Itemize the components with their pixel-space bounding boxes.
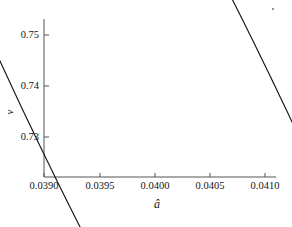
- y-axis-title: ν: [4, 110, 15, 115]
- stray-dot-mark: [272, 8, 274, 10]
- x-tick-label: 0.0400: [141, 181, 170, 192]
- y-tick-label: 0.75: [0, 30, 39, 41]
- x-tick-label: 0.0405: [196, 181, 225, 192]
- x-tick-label: 0.0395: [86, 181, 115, 192]
- plot-canvas: [0, 0, 292, 227]
- x-tick-marks: [44, 173, 265, 177]
- x-axis-title: â: [154, 198, 160, 210]
- y-tick-marks: [44, 35, 49, 137]
- x-tick-label: 0.0410: [251, 181, 280, 192]
- axis-lines: [44, 19, 276, 177]
- figure-container: 0.03900.03950.04000.04050.0410 0.750.740…: [0, 0, 292, 227]
- y-tick-label: 0.74: [0, 81, 39, 92]
- y-tick-label: 0.73: [0, 132, 39, 143]
- x-tick-label: 0.0390: [30, 181, 59, 192]
